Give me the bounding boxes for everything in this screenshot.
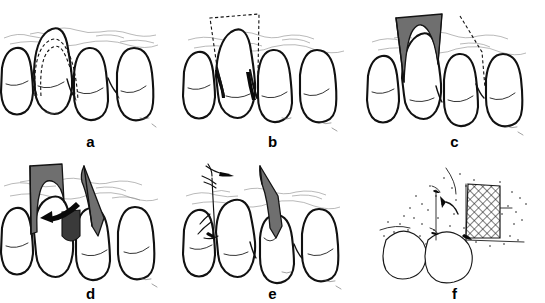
panel-label-a: a — [0, 134, 181, 149]
panel-b: b — [182, 0, 363, 151]
cross-hatched-flap — [466, 184, 500, 238]
teeth-group — [1, 28, 156, 127]
panel-a: a — [0, 0, 181, 151]
mucosa-texture — [4, 28, 158, 48]
mucosa-texture — [186, 188, 340, 209]
panel-d: d — [0, 152, 181, 303]
panel-c-illustration — [364, 0, 545, 151]
panel-label-c: c — [364, 134, 545, 149]
panel-f: f — [364, 152, 545, 303]
panel-label-d: d — [0, 286, 181, 301]
panel-a-illustration — [0, 0, 181, 151]
figure-container: a — [0, 0, 545, 303]
panel-b-illustration — [182, 0, 363, 151]
panel-label-e: e — [182, 286, 363, 301]
mucosa-texture — [4, 178, 158, 201]
teeth-group — [183, 29, 337, 131]
panel-e: e — [182, 152, 363, 303]
ridge-outline — [380, 168, 456, 230]
mucosa-texture — [372, 32, 526, 55]
panel-e-illustration — [182, 152, 363, 303]
teeth-group-occlusal — [383, 231, 472, 283]
curved-rotation-arrow — [440, 196, 458, 214]
teeth-group — [367, 33, 523, 135]
panel-c: c — [364, 0, 545, 151]
panel-d-illustration — [0, 152, 181, 303]
panel-label-f: f — [364, 286, 545, 301]
panel-label-b: b — [182, 134, 363, 149]
panel-f-illustration — [364, 152, 545, 303]
teeth-group — [183, 200, 341, 289]
